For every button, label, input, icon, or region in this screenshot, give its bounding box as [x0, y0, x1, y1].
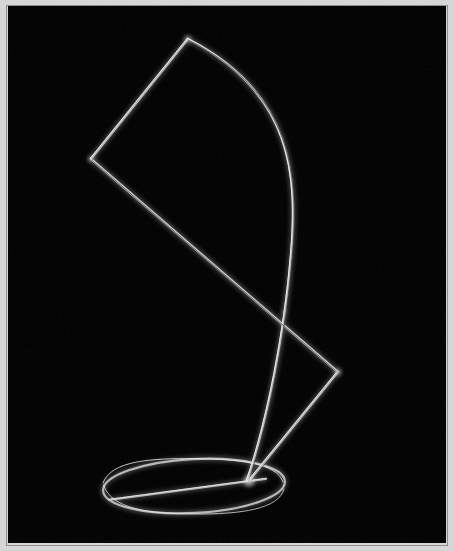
photo-frame: Abstract bent-wire sculpture on elliptic… — [0, 0, 454, 551]
sculpture-group — [8, 6, 446, 543]
film-grain-overlay — [8, 6, 446, 543]
sculpture-photograph: Abstract bent-wire sculpture on elliptic… — [0, 0, 454, 551]
